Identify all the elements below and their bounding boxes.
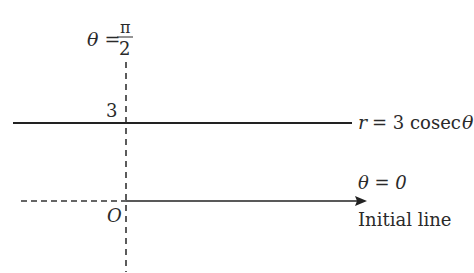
polar-diagram: θ = π 2 3 r = 3 cosec θ θ = 0 Initial li… xyxy=(0,0,474,273)
intercept-label: 3 xyxy=(106,100,117,121)
theta-half-pi-denominator: 2 xyxy=(119,38,130,59)
curve-eq: = 3 cosec xyxy=(372,112,461,133)
theta-half-pi-label: θ = π 2 xyxy=(87,18,133,59)
curve-theta: θ xyxy=(462,111,474,133)
theta-zero-label: θ = 0 xyxy=(358,172,407,193)
theta-half-pi-lhs: θ = xyxy=(87,28,120,50)
theta-half-pi-numerator: π xyxy=(120,18,131,37)
initial-line-label: Initial line xyxy=(358,209,451,230)
origin-label: O xyxy=(107,205,122,226)
curve-r: r xyxy=(358,111,369,133)
curve-equation-label: r = 3 cosec θ xyxy=(358,111,474,133)
